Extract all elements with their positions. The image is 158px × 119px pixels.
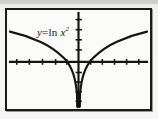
plot-frame: y=ln x2 (5, 8, 152, 111)
equation-label: y=ln x2 (37, 27, 69, 38)
equation-label-exponent: 2 (66, 25, 70, 33)
scan-edge-shadow (0, 0, 158, 4)
screenshot-root: y=ln x2 (0, 0, 158, 119)
plot-canvas (7, 10, 150, 109)
curve-left-branch (10, 32, 78, 107)
asymptote-pixel-cluster-lower (77, 101, 80, 107)
curve-right-branch (79, 32, 147, 107)
equation-label-fn: ln (49, 26, 58, 38)
